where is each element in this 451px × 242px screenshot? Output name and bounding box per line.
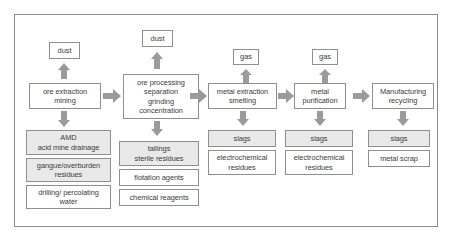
residue-box-electrochemical-residues-2: electrochemical residues — [285, 150, 353, 175]
residue-box-gangue: gangue/overburden residues — [26, 158, 111, 182]
arrow-down-to-metal-extraction-residues — [236, 111, 250, 126]
residue-box-flotation-agents: flotation agents — [119, 169, 199, 186]
arrow-down-to-metal-purification-residues — [313, 111, 327, 126]
residue-box-chemical-reagents: chemical reagents — [119, 189, 199, 206]
residue-box-slags-3: slags — [368, 130, 430, 147]
residue-box-electrochemical-residues-1: electrochemical residues — [208, 150, 276, 175]
stage-box-ore-extraction: ore extraction mining — [29, 83, 101, 109]
residue-box-metal-scrap: metal scrap — [368, 150, 430, 167]
emission-box-dust-1: dust — [49, 42, 80, 59]
emission-box-dust-2: dust — [142, 30, 173, 47]
arrow-right-extraction-to-processing — [103, 89, 121, 103]
residue-box-slags-2: slags — [285, 130, 353, 147]
residue-box-amd: AMD acid mine drainage — [26, 130, 111, 155]
emission-box-gas-1: gas — [233, 49, 259, 65]
residue-box-drilling-water: drilling/ percolating water — [26, 185, 111, 209]
arrow-right-purification-to-manufacturing — [353, 89, 370, 103]
diagram-canvas: dust dust gas gas ore extraction m — [0, 0, 451, 242]
arrow-right-smelting-to-purification — [278, 89, 294, 103]
emission-box-gas-2: gas — [312, 49, 338, 65]
residue-box-tailings: tailings sterile residues — [119, 141, 199, 166]
diagram-frame: dust dust gas gas ore extraction m — [14, 14, 438, 227]
arrow-up-to-dust-1 — [57, 63, 71, 79]
stage-box-manufacturing: Manufacturing recycling — [372, 83, 434, 109]
residue-box-slags-1: slags — [208, 130, 276, 147]
arrow-down-to-ore-extraction-residues — [57, 111, 71, 127]
arrow-down-to-manufacturing-residues — [396, 111, 410, 126]
stage-box-metal-purification: metal purification — [294, 83, 346, 109]
arrow-up-to-dust-2 — [150, 52, 164, 69]
stage-box-metal-extraction: metal extraction smelting — [208, 83, 277, 109]
arrow-down-to-ore-processing-residues — [150, 121, 164, 136]
arrow-right-processing-to-smelting — [190, 89, 207, 103]
arrow-up-to-gas-1 — [239, 69, 253, 83]
stage-box-ore-processing: ore processing separation grinding conce… — [123, 74, 199, 119]
arrow-up-to-gas-2 — [318, 69, 332, 83]
